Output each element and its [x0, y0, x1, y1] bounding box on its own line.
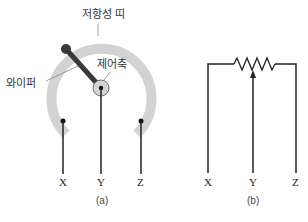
terminal-x-label: X [59, 176, 67, 188]
shaft-leader-line [104, 72, 110, 80]
terminal-y-label: Y [97, 176, 105, 188]
wiper-tip [61, 44, 71, 54]
schematic-terminal-z-label: Z [292, 176, 299, 188]
schematic-wire-right [275, 64, 296, 173]
potentiometer-diagram: 저항성 띠 와이퍼 제어축 X Y Z (a) X Y Z (b) [0, 0, 308, 222]
panel-b-schematic: X Y Z (b) [204, 58, 299, 206]
resistor-symbol [234, 58, 275, 70]
caption-b: (b) [247, 195, 259, 206]
terminal-z-label: Z [137, 176, 144, 188]
schematic-wire-left [208, 64, 234, 173]
caption-a: (a) [96, 195, 108, 206]
shaft-label: 제어축 [97, 58, 127, 71]
schematic-terminal-x-label: X [204, 176, 212, 188]
panel-a-physical-potentiometer: 저항성 띠 와이퍼 제어축 X Y Z (a) [6, 8, 152, 206]
wiper-arrow-head [250, 70, 256, 78]
wiper-label: 와이퍼 [6, 77, 36, 90]
schematic-terminal-y-label: Y [249, 176, 257, 188]
resistive-band-label: 저항성 띠 [82, 8, 126, 21]
